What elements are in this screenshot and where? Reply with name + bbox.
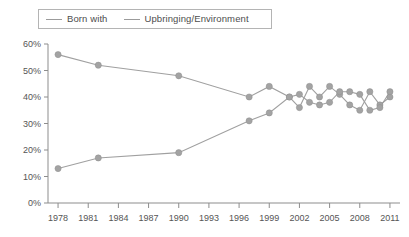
series-line-upbringing-environment <box>58 92 390 169</box>
x-tick-label: 1984 <box>108 213 128 223</box>
data-point-born-with <box>176 73 182 79</box>
data-point-born-with <box>347 102 353 108</box>
x-tick-label: 2005 <box>320 213 340 223</box>
line-chart-svg: 0%10%20%30%40%50%60% 1978198119841987199… <box>0 0 409 237</box>
data-point-upbringing-environment <box>387 89 393 95</box>
x-tick-label: 1987 <box>139 213 159 223</box>
data-point-born-with <box>327 83 333 89</box>
data-point-upbringing-environment <box>347 89 353 95</box>
y-tick-label: 40% <box>23 92 41 102</box>
data-point-born-with <box>95 62 101 68</box>
data-point-upbringing-environment <box>296 91 302 97</box>
data-point-upbringing-environment <box>95 155 101 161</box>
y-tick-label: 60% <box>23 39 41 49</box>
y-tick-label: 50% <box>23 66 41 76</box>
data-point-born-with <box>55 52 61 58</box>
x-tick-label: 2008 <box>350 213 370 223</box>
data-point-born-with <box>357 107 363 113</box>
data-point-upbringing-environment <box>337 89 343 95</box>
data-point-upbringing-environment <box>266 110 272 116</box>
data-point-born-with <box>246 94 252 100</box>
x-axis-ticks: 1978198119841987199019931996199920022005… <box>48 203 400 223</box>
data-point-upbringing-environment <box>367 107 373 113</box>
data-point-born-with <box>316 94 322 100</box>
y-axis-ticks: 0%10%20%30%40%50%60% <box>23 39 48 208</box>
data-point-upbringing-environment <box>377 105 383 111</box>
y-tick-label: 0% <box>28 198 41 208</box>
data-point-upbringing-environment <box>55 165 61 171</box>
chart-root: Born with Upbringing/Environment 0%10%20… <box>0 0 409 237</box>
x-tick-label: 1999 <box>259 213 279 223</box>
series-layer <box>55 52 393 172</box>
data-point-born-with <box>266 83 272 89</box>
data-point-upbringing-environment <box>176 150 182 156</box>
y-tick-label: 10% <box>23 172 41 182</box>
data-point-born-with <box>296 105 302 111</box>
data-point-upbringing-environment <box>306 99 312 105</box>
x-tick-label: 2011 <box>380 213 399 223</box>
x-tick-label: 1981 <box>78 213 98 223</box>
series-line-born-with <box>58 55 390 111</box>
data-point-born-with <box>306 83 312 89</box>
x-tick-label: 2002 <box>289 213 309 223</box>
chart-plot-area: 0%10%20%30%40%50%60% 1978198119841987199… <box>0 0 409 237</box>
data-point-upbringing-environment <box>357 91 363 97</box>
x-tick-label: 1978 <box>48 213 68 223</box>
data-point-upbringing-environment <box>316 102 322 108</box>
y-tick-label: 20% <box>23 145 41 155</box>
x-tick-label: 1993 <box>199 213 219 223</box>
x-tick-label: 1996 <box>229 213 249 223</box>
data-point-born-with <box>367 89 373 95</box>
y-tick-label: 30% <box>23 119 41 129</box>
x-tick-label: 1990 <box>169 213 189 223</box>
data-point-upbringing-environment <box>286 94 292 100</box>
data-point-upbringing-environment <box>327 99 333 105</box>
data-point-upbringing-environment <box>246 118 252 124</box>
